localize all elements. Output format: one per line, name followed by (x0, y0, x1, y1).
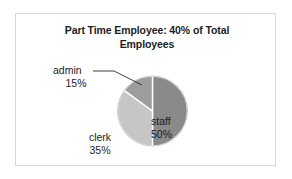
pie-label-staff-name: staff (151, 115, 195, 128)
pie-label-admin: admin 15% (49, 64, 103, 90)
pie-label-clerk: clerk 35% (74, 131, 126, 157)
pie-label-staff: staff 50% (151, 115, 195, 141)
pie-label-admin-value: 15% (49, 77, 103, 90)
plot-area: admin 15% clerk 35% staff 50% (16, 14, 275, 165)
pie-label-admin-name: admin (49, 64, 103, 77)
pie-label-clerk-value: 35% (74, 144, 126, 157)
pie-label-clerk-name: clerk (74, 131, 126, 144)
pie-chart-figure: Part Time Employee: 40% of Total Employe… (0, 0, 292, 179)
chart-frame: Part Time Employee: 40% of Total Employe… (15, 13, 276, 166)
pie-label-staff-value: 50% (151, 128, 195, 141)
